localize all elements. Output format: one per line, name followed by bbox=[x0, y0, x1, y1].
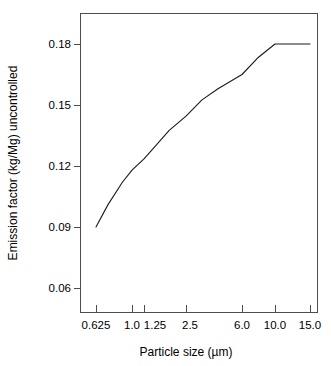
y-axis-title: Emission factor (kg/Mg) uncontrolled bbox=[6, 66, 20, 261]
y-tick-label-0.06: 0.06 bbox=[49, 282, 71, 294]
y-tick-label-0.09: 0.09 bbox=[49, 221, 71, 233]
x-tick-label-6.0: 6.0 bbox=[234, 319, 250, 331]
x-tick-label-0.625: 0.625 bbox=[82, 319, 111, 331]
x-axis-title: Particle size (µm) bbox=[140, 345, 233, 359]
chart-page: 0.18 0.15 0.12 0.09 0.06 0.625 1.0 1.25 … bbox=[0, 0, 331, 366]
y-tick-label-0.12: 0.12 bbox=[49, 160, 71, 172]
x-tick-label-15.0: 15.0 bbox=[299, 319, 321, 331]
x-tick-label-1.0: 1.0 bbox=[124, 319, 140, 331]
x-tick-label-1.25: 1.25 bbox=[144, 319, 166, 331]
x-tick-label-10.0: 10.0 bbox=[264, 319, 286, 331]
emission-factor-chart: 0.18 0.15 0.12 0.09 0.06 0.625 1.0 1.25 … bbox=[0, 0, 331, 366]
chart-background bbox=[0, 0, 331, 366]
y-tick-label-0.15: 0.15 bbox=[49, 99, 71, 111]
y-tick-label-0.18: 0.18 bbox=[49, 38, 71, 50]
x-tick-label-2.5: 2.5 bbox=[182, 319, 198, 331]
